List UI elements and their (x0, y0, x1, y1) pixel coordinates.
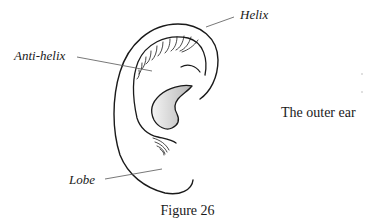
figure-title: The outer ear (281, 105, 356, 121)
antihelix-hatching (137, 36, 198, 79)
concha (152, 85, 192, 129)
lobe-leader (105, 169, 162, 179)
scan-artifact (361, 73, 363, 75)
crus-outline (181, 65, 200, 72)
helix-leader (206, 17, 234, 27)
lobe-label: Lobe (69, 173, 95, 186)
anti-helix-label: Anti-helix (14, 49, 65, 62)
figure-caption: Figure 26 (0, 203, 375, 219)
scan-artifact (361, 91, 363, 93)
antihelix-leader (77, 57, 152, 71)
antitragus-hatching (153, 138, 169, 155)
helix-label: Helix (240, 8, 268, 21)
